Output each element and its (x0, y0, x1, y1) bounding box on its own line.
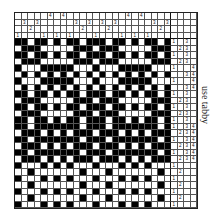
weaving-draft-grid: 4444333333332222111111111323132314341434… (14, 12, 198, 209)
treadling-cell (191, 202, 198, 209)
use-tabby-note: use tabby (198, 86, 212, 146)
